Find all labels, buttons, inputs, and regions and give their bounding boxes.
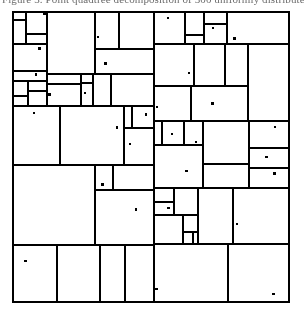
data-point-marker: [265, 156, 267, 158]
data-point-marker: [272, 293, 274, 295]
data-point-marker: [104, 62, 106, 64]
figure-caption-clip: Figure 3. Point quadtree decomposition o…: [0, 0, 304, 9]
data-point-marker: [274, 126, 276, 128]
data-point-marker: [129, 143, 131, 145]
data-point-marker: [43, 13, 45, 15]
figure-area: [0, 9, 304, 316]
data-point-marker: [155, 288, 157, 290]
data-point-marker: [171, 133, 173, 135]
data-point-marker: [188, 72, 190, 74]
data-point-marker: [38, 47, 40, 49]
data-point-marker: [135, 208, 137, 210]
figure-caption-strip: Figure 3. Point quadtree decomposition o…: [0, 0, 304, 9]
figure-caption-text: Figure 3. Point quadtree decomposition o…: [2, 0, 304, 6]
data-point-marker: [185, 170, 187, 172]
data-point-marker: [33, 112, 35, 114]
data-point-marker: [48, 93, 50, 95]
data-point-marker: [101, 183, 103, 185]
data-point-marker: [97, 36, 99, 38]
data-point-marker: [195, 141, 197, 143]
data-point-marker: [84, 92, 86, 94]
quadtree-diagram: [12, 11, 290, 303]
data-point-marker: [167, 17, 169, 19]
data-point-marker: [156, 106, 158, 108]
data-point-marker: [233, 37, 235, 39]
data-point-marker: [212, 27, 214, 29]
data-point-marker: [211, 102, 213, 104]
data-point-marker: [145, 113, 147, 115]
data-point-marker: [167, 207, 169, 209]
data-point-marker: [116, 126, 118, 128]
data-point-marker: [35, 73, 37, 75]
data-point-marker: [24, 260, 26, 262]
data-point-marker: [236, 223, 238, 225]
data-point-marker: [273, 172, 275, 174]
